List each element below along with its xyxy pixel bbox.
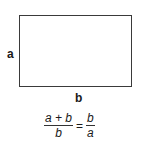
equals-sign: = (76, 119, 83, 133)
side-a-label: a (7, 48, 14, 60)
left-numerator: a + b (44, 112, 73, 124)
golden-ratio-equation: a + b b = b a (44, 112, 95, 139)
right-numerator: b (86, 112, 95, 124)
golden-rectangle (19, 15, 132, 87)
right-denominator: a (86, 127, 95, 139)
right-fraction: b a (86, 112, 95, 139)
left-denominator: b (54, 127, 63, 139)
side-b-label: b (75, 92, 82, 104)
left-fraction: a + b b (44, 112, 73, 139)
